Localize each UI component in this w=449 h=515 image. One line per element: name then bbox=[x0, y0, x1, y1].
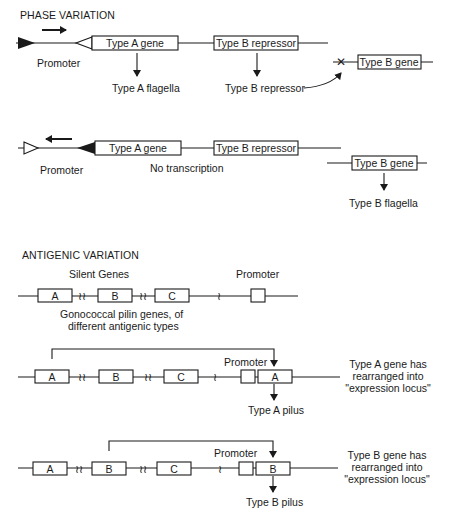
rearrangement-note-line3: "expression locus" bbox=[344, 473, 430, 485]
type-b-repressor-product-label: Type B repressor bbox=[225, 82, 305, 94]
rearrangement-b-row: Promoter A ≀≀ B ≀≀ C ≀ B Type B pilus Ty… bbox=[18, 441, 430, 508]
rearrangement-a-row: Promoter A ≀≀ B ≀≀ C ≀ A Type A pilus Ty… bbox=[18, 349, 431, 416]
rearrangement-note-line2: rearranged into bbox=[352, 370, 423, 382]
promoter-box bbox=[239, 462, 253, 475]
silent-genes-label: Silent Genes bbox=[69, 268, 129, 280]
rearrangement-note-line1: Type B gene has bbox=[348, 449, 427, 461]
type-a-flagella-label: Type A flagella bbox=[112, 82, 180, 94]
gene-c-label: C bbox=[168, 290, 176, 302]
gene-c-label: C bbox=[177, 371, 185, 383]
promoter-filled-triangle-icon bbox=[77, 142, 95, 154]
promoter-label: Promoter bbox=[236, 268, 280, 280]
promoter-label: Promoter bbox=[40, 164, 84, 176]
repressed-x-icon: ✕ bbox=[336, 55, 346, 69]
type-b-repressor-gene-label: Type B repressor bbox=[216, 37, 296, 49]
genes-caption-line2: different antigenic types bbox=[68, 320, 179, 332]
gene-a-label: A bbox=[46, 463, 53, 475]
promoter-label: Promoter bbox=[214, 447, 258, 459]
break-icon: ≀≀ bbox=[139, 463, 147, 475]
rearrangement-note-line3: "expression locus" bbox=[345, 382, 431, 394]
break-icon: ≀ bbox=[217, 290, 221, 302]
promoter-box bbox=[251, 289, 265, 302]
promoter-label: Promoter bbox=[37, 57, 81, 69]
rearrangement-note-line2: rearranged into bbox=[351, 461, 422, 473]
type-b-pilus-label: Type B pilus bbox=[246, 496, 303, 508]
promoter-open-triangle-icon bbox=[76, 37, 92, 49]
genetic-variation-diagram: PHASE VARIATION Type A gene Type B repre… bbox=[0, 0, 449, 515]
break-icon: ≀≀ bbox=[75, 463, 83, 475]
type-a-gene-label: Type A gene bbox=[109, 142, 167, 154]
phase-variation-title: PHASE VARIATION bbox=[20, 9, 115, 21]
break-icon: ≀ bbox=[218, 463, 222, 475]
promoter-box bbox=[241, 370, 255, 383]
type-a-gene-label: Type A gene bbox=[106, 37, 164, 49]
no-transcription-label: No transcription bbox=[150, 162, 224, 174]
repression-arrow bbox=[304, 73, 341, 88]
type-b-gene-label: Type B gene bbox=[360, 56, 419, 68]
genes-caption-line1: Gonococcal pilin genes, of bbox=[60, 308, 183, 320]
break-icon: ≀≀ bbox=[78, 371, 86, 383]
type-b-repressor-gene-label: Type B repressor bbox=[216, 142, 296, 154]
silent-genes-row: Silent Genes Promoter A ≀≀ B ≀≀ C ≀ Gono… bbox=[18, 268, 298, 332]
gene-b-label: B bbox=[112, 371, 119, 383]
break-icon: ≀ bbox=[213, 371, 217, 383]
break-icon: ≀≀ bbox=[144, 371, 152, 383]
promoter-open-triangle-icon bbox=[24, 142, 38, 154]
gene-b-label: B bbox=[111, 290, 118, 302]
gene-a-label: A bbox=[48, 371, 55, 383]
break-icon: ≀≀ bbox=[139, 290, 147, 302]
type-b-flagella-label: Type B flagella bbox=[349, 197, 418, 209]
break-icon: ≀≀ bbox=[78, 290, 86, 302]
gene-b-label: B bbox=[105, 463, 112, 475]
type-b-gene-label: Type B gene bbox=[355, 157, 414, 169]
type-a-pilus-label: Type A pilus bbox=[248, 404, 304, 416]
gene-c-label: C bbox=[170, 463, 178, 475]
phase-off-state: Type A gene Type B repressor Promoter No… bbox=[18, 139, 427, 209]
antigenic-variation-title: ANTIGENIC VARIATION bbox=[22, 249, 139, 261]
expressed-gene-label: B bbox=[269, 463, 276, 475]
promoter-label: Promoter bbox=[224, 356, 268, 368]
rearrangement-note-line1: Type A gene has bbox=[349, 358, 427, 370]
promoter-filled-triangle-icon bbox=[18, 37, 35, 49]
expressed-gene-label: A bbox=[271, 371, 278, 383]
phase-on-state: Type A gene Type B repressor Promoter Ty… bbox=[16, 30, 433, 94]
gene-a-label: A bbox=[51, 290, 58, 302]
